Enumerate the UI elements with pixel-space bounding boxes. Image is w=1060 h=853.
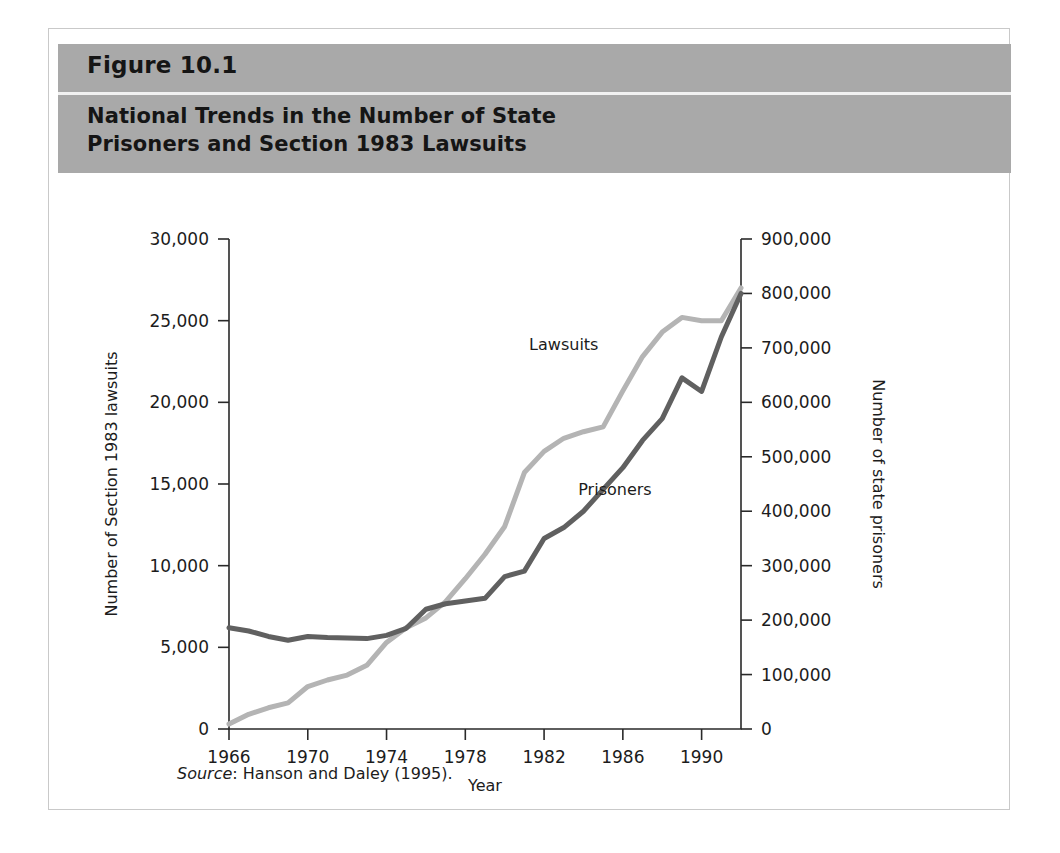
series-label-prisoners: Prisoners xyxy=(578,480,651,499)
y-axis-tick-label: 5,000 xyxy=(160,637,209,657)
x-axis-tick-label: 1986 xyxy=(601,747,644,767)
source-note: Source: Hanson and Daley (1995). xyxy=(177,764,453,783)
y-axis-tick-label: 25,000 xyxy=(150,311,209,331)
x-axis-tick-label: 1990 xyxy=(680,747,723,767)
series-line-lawsuits xyxy=(229,288,741,724)
y2-axis-tick-label: 300,000 xyxy=(761,556,831,576)
figure-title: National Trends in the Number of State P… xyxy=(87,102,787,158)
source-label: Source xyxy=(177,764,232,783)
chart-svg: 05,00010,00015,00020,00025,00030,0000100… xyxy=(49,177,1011,811)
axes-group: 05,00010,00015,00020,00025,00030,0000100… xyxy=(102,229,888,795)
y-axis-title: Number of Section 1983 lawsuits xyxy=(102,351,121,616)
figure-title-line-1: National Trends in the Number of State xyxy=(87,102,787,130)
x-axis-tick-label: 1982 xyxy=(522,747,565,767)
figure-title-line-2: Prisoners and Section 1983 Lawsuits xyxy=(87,130,787,158)
y-axis-tick-label: 20,000 xyxy=(150,392,209,412)
axis-frame xyxy=(229,239,741,729)
series-label-lawsuits: Lawsuits xyxy=(529,335,598,354)
y-axis-tick-label: 0 xyxy=(198,719,209,739)
figure-number-row: Figure 10.1 xyxy=(58,44,1011,92)
source-text: : Hanson and Daley (1995). xyxy=(232,764,452,783)
y2-axis-tick-label: 0 xyxy=(761,719,772,739)
figure-card: Figure 10.1 National Trends in the Numbe… xyxy=(48,28,1010,810)
y2-axis-tick-label: 500,000 xyxy=(761,447,831,467)
y2-axis-tick-label: 600,000 xyxy=(761,392,831,412)
y2-axis-tick-label: 800,000 xyxy=(761,283,831,303)
y-axis-tick-label: 15,000 xyxy=(150,474,209,494)
figure-header-band: Figure 10.1 National Trends in the Numbe… xyxy=(58,44,1011,173)
series-group xyxy=(229,288,741,724)
y2-axis-tick-label: 700,000 xyxy=(761,338,831,358)
y-axis-tick-label: 10,000 xyxy=(150,556,209,576)
figure-number: Figure 10.1 xyxy=(87,52,237,78)
y2-axis-tick-label: 200,000 xyxy=(761,610,831,630)
chart-plot-area: 05,00010,00015,00020,00025,00030,0000100… xyxy=(49,177,1011,811)
series-line-prisoners xyxy=(229,293,741,640)
header-divider xyxy=(58,92,1011,95)
y2-axis-tick-label: 100,000 xyxy=(761,665,831,685)
x-axis-title: Year xyxy=(467,776,502,795)
series-labels-group: LawsuitsPrisoners xyxy=(529,335,652,499)
y2-axis-tick-label: 400,000 xyxy=(761,501,831,521)
y2-axis-title: Number of state prisoners xyxy=(869,379,888,589)
y-axis-tick-label: 30,000 xyxy=(150,229,209,249)
y2-axis-tick-label: 900,000 xyxy=(761,229,831,249)
